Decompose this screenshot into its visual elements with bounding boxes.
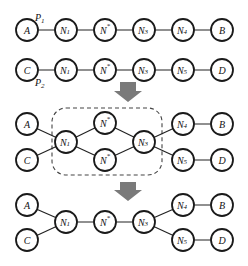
svg-text:D: D: [217, 235, 226, 246]
node-N-star-top: N*: [94, 112, 116, 134]
node-A: A: [16, 194, 38, 216]
path-merge-diagram: P1 P2 A N1 N* N3 N4 B C: [0, 0, 248, 266]
svg-text:A: A: [23, 119, 31, 130]
node-D: D: [211, 229, 233, 251]
path-2-label: P2: [34, 77, 45, 90]
node-N1: N1: [55, 19, 77, 41]
node-A: A: [16, 19, 38, 41]
stage-2: A C N1 N* N* N3 N4 N5: [16, 108, 233, 175]
node-N3: N3: [133, 19, 155, 41]
node-A: A: [16, 113, 38, 135]
node-N3: N3: [133, 131, 155, 153]
node-C: C: [16, 59, 38, 81]
node-N4: N4: [172, 194, 194, 216]
node-N-star: N*: [94, 59, 116, 81]
stage-3: A C N1 N* N3 N4 N5 B: [16, 194, 233, 251]
svg-text:A: A: [23, 200, 31, 211]
down-arrow-icon: [114, 82, 142, 102]
svg-text:B: B: [219, 119, 225, 130]
node-B: B: [211, 113, 233, 135]
node-B: B: [211, 19, 233, 41]
svg-text:D: D: [217, 65, 226, 76]
down-arrow-icon: [114, 182, 142, 201]
node-D: D: [211, 59, 233, 81]
svg-text:B: B: [219, 200, 225, 211]
svg-text:A: A: [23, 25, 31, 36]
node-N1: N1: [55, 131, 77, 153]
node-N5: N5: [172, 229, 194, 251]
svg-text:B: B: [219, 25, 225, 36]
svg-text:C: C: [24, 155, 31, 166]
svg-text:C: C: [24, 65, 31, 76]
stage-1: P1 P2 A N1 N* N3 N4 B C: [16, 12, 233, 90]
svg-text:C: C: [24, 235, 31, 246]
node-N5: N5: [172, 149, 194, 171]
node-N1: N1: [55, 211, 77, 233]
node-C: C: [16, 149, 38, 171]
node-N5: N5: [172, 59, 194, 81]
svg-text:D: D: [217, 155, 226, 166]
node-N1: N1: [55, 59, 77, 81]
node-N-star: N*: [94, 211, 116, 233]
node-B: B: [211, 194, 233, 216]
node-D: D: [211, 149, 233, 171]
node-N4: N4: [172, 19, 194, 41]
node-C: C: [16, 229, 38, 251]
node-N4: N4: [172, 113, 194, 135]
node-N3: N3: [133, 211, 155, 233]
node-N-star: N*: [94, 19, 116, 41]
node-N-star-bottom: N*: [94, 149, 116, 171]
node-N3: N3: [133, 59, 155, 81]
